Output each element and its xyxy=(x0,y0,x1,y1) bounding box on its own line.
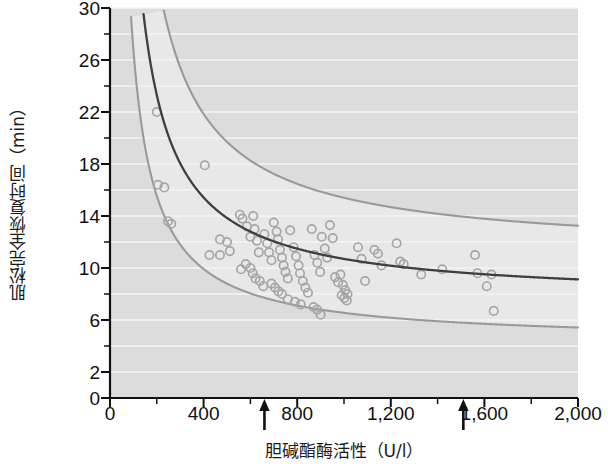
x-axis-label-text: 胆碱酯酶活性（U/l） xyxy=(265,437,424,462)
x-axis-tick-label: 2,000 xyxy=(554,404,602,423)
chart-figure: 肌松完全恢复时间（min） 026101418222630 04008001,2… xyxy=(0,0,608,464)
x-axis-tick-label: 1,200 xyxy=(367,404,415,423)
x-axis-tick-label: 1,600 xyxy=(461,404,509,423)
x-axis-label: 胆碱酯酶活性（U/l） xyxy=(110,437,578,463)
x-axis-tick-label: 400 xyxy=(188,404,220,423)
x-axis-tick-label: 0 xyxy=(105,404,116,423)
x-axis-tick-label: 800 xyxy=(281,404,313,423)
x-axis-tick-labels: 04008001,2001,6002,000 xyxy=(0,0,608,464)
